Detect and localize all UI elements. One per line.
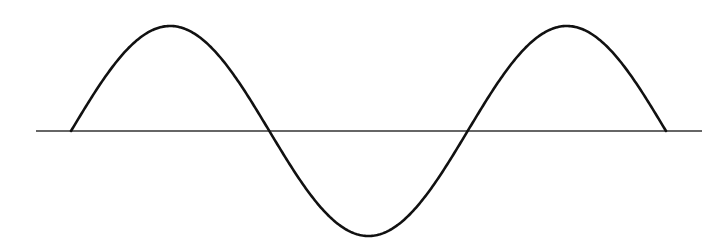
sine-wave-figure [0, 0, 728, 246]
sine-wave-plot [0, 0, 728, 246]
